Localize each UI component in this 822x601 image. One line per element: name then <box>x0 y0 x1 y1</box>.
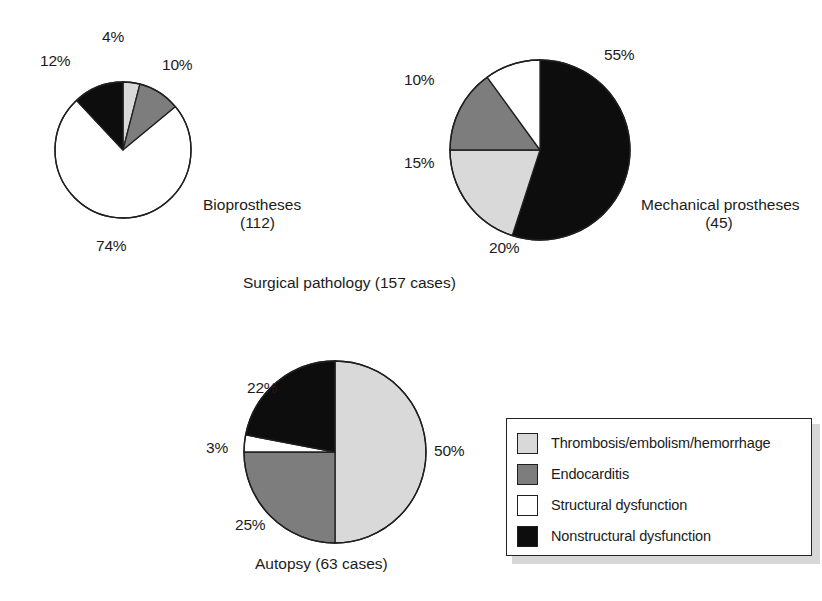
legend-swatch-endocarditis <box>517 464 538 485</box>
pie-slice-label-bio-12: 12% <box>40 53 70 69</box>
legend-swatch-thrombosis <box>517 433 538 454</box>
pie-slice-label-bio-10: 10% <box>162 57 192 73</box>
pie-title-bioprostheses-line1: Bioprostheses <box>203 196 301 213</box>
pie-title-mechanical-line2: (45) <box>641 214 821 232</box>
pie-mechanical-prostheses <box>450 60 630 240</box>
caption-autopsy: Autopsy (63 cases) <box>255 556 388 572</box>
pie-slice <box>335 361 426 543</box>
pie-slice-label-mech-15: 15% <box>404 155 434 171</box>
legend-swatch-structural <box>517 495 538 516</box>
pie-slice-label-bio-74: 74% <box>96 238 126 254</box>
legend-label-structural: Structural dysfunction <box>551 497 687 513</box>
legend-item: Structural dysfunction <box>517 490 811 520</box>
pie-slice-label-autopsy-50: 50% <box>434 443 464 459</box>
pie-slice-label-mech-55: 55% <box>604 47 634 63</box>
pie-slice-label-autopsy-3: 3% <box>206 440 228 456</box>
legend: Thrombosis/embolism/hemorrhageEndocardit… <box>506 418 812 556</box>
pie-chart-figure: 12% 4% 10% 74% Bioprostheses (112) 55% 1… <box>0 0 822 601</box>
legend-item: Thrombosis/embolism/hemorrhage <box>517 428 811 458</box>
pie-bioprostheses <box>55 82 191 218</box>
pie-slice-label-mech-10: 10% <box>404 72 434 88</box>
legend-label-nonstructural: Nonstructural dysfunction <box>551 528 711 544</box>
pie-slice-label-bio-4: 4% <box>102 29 124 45</box>
pie-title-mechanical-line1: Mechanical prostheses <box>641 196 800 213</box>
pie-title-bioprostheses: Bioprostheses (112) <box>203 196 348 233</box>
pie-title-bioprostheses-line2: (112) <box>203 214 348 232</box>
legend-label-thrombosis: Thrombosis/embolism/hemorrhage <box>551 435 771 451</box>
legend-label-endocarditis: Endocarditis <box>551 466 629 482</box>
pie-slice-label-mech-20: 20% <box>489 240 519 256</box>
legend-item: Endocarditis <box>517 459 811 489</box>
legend-item: Nonstructural dysfunction <box>517 521 811 551</box>
pie-title-mechanical: Mechanical prostheses (45) <box>641 196 821 233</box>
pie-slice-label-autopsy-22: 22% <box>247 380 277 396</box>
pie-slice-label-autopsy-25: 25% <box>235 517 265 533</box>
caption-surgical-pathology: Surgical pathology (157 cases) <box>243 275 456 291</box>
legend-swatch-nonstructural <box>517 526 538 547</box>
